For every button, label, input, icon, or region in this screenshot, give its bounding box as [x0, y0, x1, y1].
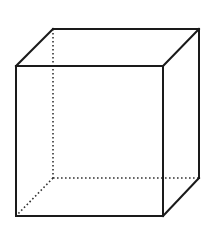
- visible-edges-group: [16, 29, 199, 216]
- visible-edge-back-bottom-right-to-front-bottom-right: [163, 178, 199, 216]
- visible-edge-back-top-right-to-front-top-right: [163, 29, 199, 66]
- visible-edge-front-top-left-to-back-top-left: [16, 29, 53, 66]
- hidden-edge-back-bottom-left-to-front-bottom-left: [16, 178, 53, 216]
- cube-diagram: [0, 0, 219, 240]
